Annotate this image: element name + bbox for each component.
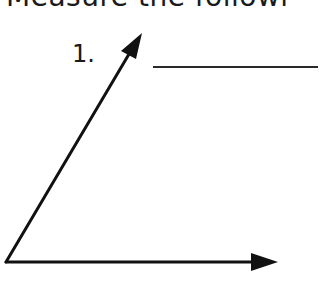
diagonal-arrowhead-icon (121, 33, 142, 59)
diagonal-ray (6, 49, 132, 262)
worksheet-page: Measure the followi 1. (0, 0, 323, 292)
horizontal-arrowhead-icon (251, 253, 278, 271)
angle-diagram (0, 0, 323, 292)
